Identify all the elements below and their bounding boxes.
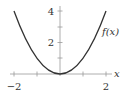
y-tick-label-mid: 2 (48, 37, 54, 48)
function-label: f(x) (101, 26, 119, 37)
function-plot: −2 2 2 4 x f(x) (0, 0, 129, 98)
x-axis-label: x (114, 68, 120, 79)
x-tick-label-min: −2 (7, 81, 22, 92)
y-tick-label-max: 4 (48, 6, 54, 17)
x-tick-label-max: 2 (103, 81, 109, 92)
